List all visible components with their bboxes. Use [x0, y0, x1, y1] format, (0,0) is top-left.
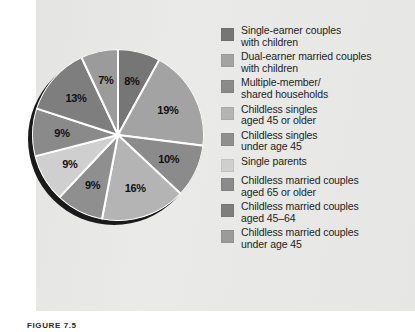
legend-item-label-line: Childless married couples: [241, 201, 359, 213]
legend-item-label-line: aged 45 or older: [241, 115, 318, 127]
legend-item-label: Childless married couplesunder age 45: [241, 227, 359, 250]
legend-color-swatch: [221, 133, 234, 146]
legend-item: Childless singlesunder age 45: [221, 130, 411, 153]
legend-item-label-line: aged 65 or older: [241, 187, 359, 199]
legend-item-label-line: under age 45: [241, 141, 318, 153]
legend-item-label-line: with children: [241, 37, 341, 49]
legend-item-label: Childless married couplesaged 45–64: [241, 201, 359, 224]
figure-caption: FIGURE 7.5: [27, 321, 77, 330]
legend-item: Multiple-member/shared households: [221, 77, 411, 100]
legend: Single-earner coupleswith childrenDual-e…: [221, 25, 411, 254]
legend-item: Childless married couplesunder age 45: [221, 227, 411, 250]
pie-slice-value-label: 10%: [158, 153, 179, 165]
pie-slice-value-label: 16%: [125, 182, 146, 194]
pie-slice-value-label: 7%: [98, 74, 113, 86]
pie-slice-value-label: 13%: [65, 92, 86, 104]
legend-item-label: Dual-earner married coupleswith children: [241, 51, 371, 74]
legend-item-label-line: shared households: [241, 89, 328, 101]
legend-item-label-line: Single parents: [241, 156, 307, 168]
pie-chart: 8%19%10%16%9%9%9%13%7%: [25, 47, 211, 233]
legend-item: Childless married couplesaged 65 or olde…: [221, 175, 411, 198]
pie-slice-value-label: 8%: [124, 75, 139, 87]
legend-item: Childless married couplesaged 45–64: [221, 201, 411, 224]
legend-color-swatch: [221, 178, 234, 191]
legend-color-swatch: [221, 107, 234, 120]
legend-color-swatch: [221, 204, 234, 217]
legend-item: Dual-earner married coupleswith children: [221, 51, 411, 74]
legend-item: Single parents: [221, 156, 411, 172]
pie-slice-value-label: 9%: [54, 127, 69, 139]
pie-slice-value-label: 19%: [157, 104, 178, 116]
legend-item-label-line: Childless married couples: [241, 175, 359, 187]
legend-color-swatch: [221, 80, 234, 93]
legend-item-label-line: under age 45: [241, 239, 359, 251]
legend-item-label: Multiple-member/shared households: [241, 77, 328, 100]
legend-item-label-line: Single-earner couples: [241, 25, 341, 37]
legend-item-label: Childless singlesaged 45 or older: [241, 104, 318, 127]
legend-color-swatch: [221, 230, 234, 243]
legend-color-swatch: [221, 159, 234, 172]
legend-item: Single-earner coupleswith children: [221, 25, 411, 48]
legend-item-label: Single-earner coupleswith children: [241, 25, 341, 48]
legend-item-label: Single parents: [241, 156, 307, 168]
legend-color-swatch: [221, 28, 234, 41]
pie-slice-value-label: 9%: [85, 179, 100, 191]
pie-slice-value-label: 9%: [62, 158, 77, 170]
legend-item-label-line: with children: [241, 63, 371, 75]
legend-color-swatch: [221, 54, 234, 67]
legend-item-label: Childless married couplesaged 65 or olde…: [241, 175, 359, 198]
legend-item-label: Childless singlesunder age 45: [241, 130, 318, 153]
legend-item: Childless singlesaged 45 or older: [221, 104, 411, 127]
legend-item-label-line: aged 45–64: [241, 213, 359, 225]
